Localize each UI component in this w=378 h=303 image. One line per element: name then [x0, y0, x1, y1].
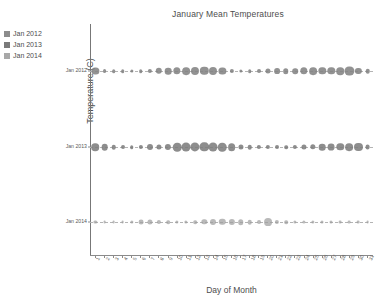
x-tick-label: 22 — [286, 254, 293, 261]
data-point[interactable] — [202, 219, 207, 224]
data-point[interactable] — [218, 143, 227, 152]
data-point[interactable] — [121, 145, 125, 149]
data-point[interactable] — [111, 145, 116, 150]
data-point[interactable] — [193, 220, 197, 224]
x-tick-label: 24 — [304, 254, 311, 261]
legend-swatch-icon — [4, 42, 10, 48]
data-point[interactable] — [103, 69, 107, 73]
chart-title: January Mean Temperatures — [88, 9, 368, 19]
data-point[interactable] — [173, 143, 182, 152]
data-point[interactable] — [200, 67, 208, 75]
data-point[interactable] — [265, 68, 270, 73]
data-point[interactable] — [319, 144, 326, 151]
data-point[interactable] — [275, 145, 279, 149]
x-tick-label: 11 — [186, 254, 193, 261]
data-point[interactable] — [248, 69, 252, 73]
data-point[interactable] — [319, 67, 326, 74]
data-point[interactable] — [284, 220, 288, 224]
data-point[interactable] — [147, 219, 152, 224]
data-point[interactable] — [92, 143, 100, 151]
data-point[interactable] — [130, 145, 134, 149]
data-point[interactable] — [346, 143, 354, 151]
chart-legend: Jan 2012Jan 2013Jan 2014 — [4, 29, 42, 60]
data-point[interactable] — [257, 220, 261, 224]
data-point[interactable] — [337, 67, 345, 75]
data-point[interactable] — [101, 144, 108, 151]
data-point[interactable] — [330, 221, 333, 224]
data-point[interactable] — [264, 218, 272, 226]
data-point[interactable] — [355, 68, 361, 74]
data-point[interactable] — [321, 221, 324, 224]
data-point[interactable] — [247, 220, 252, 225]
data-point[interactable] — [138, 220, 143, 225]
data-point[interactable] — [147, 144, 153, 150]
x-tick-label: 10 — [177, 254, 184, 261]
data-point[interactable] — [209, 67, 217, 75]
data-point[interactable] — [156, 144, 161, 149]
data-point[interactable] — [103, 221, 106, 224]
legend-item-jan-2014[interactable]: Jan 2014 — [4, 51, 42, 60]
legend-item-jan-2012[interactable]: Jan 2012 — [4, 29, 42, 38]
legend-item-jan-2013[interactable]: Jan 2013 — [4, 40, 42, 49]
data-point[interactable] — [112, 221, 115, 224]
data-point[interactable] — [365, 69, 370, 74]
data-point[interactable] — [348, 221, 351, 224]
data-point[interactable] — [247, 145, 252, 150]
data-point[interactable] — [165, 144, 171, 150]
data-point[interactable] — [302, 144, 307, 149]
data-point[interactable] — [219, 219, 225, 225]
data-point[interactable] — [165, 68, 172, 75]
data-point[interactable] — [112, 69, 116, 73]
x-tick-label: 19 — [259, 254, 266, 261]
x-tick-label: 31 — [368, 254, 375, 261]
data-point[interactable] — [139, 69, 143, 73]
x-tick-label: 17 — [241, 254, 248, 261]
data-point[interactable] — [257, 69, 261, 73]
data-point[interactable] — [337, 143, 344, 150]
data-point[interactable] — [328, 144, 335, 151]
data-point[interactable] — [328, 67, 335, 74]
data-point[interactable] — [283, 68, 289, 74]
data-point[interactable] — [310, 144, 315, 149]
data-point[interactable] — [156, 68, 162, 74]
x-tick-label: 20 — [268, 254, 275, 261]
data-point[interactable] — [354, 143, 362, 151]
y-tick-label: Jan 2014 — [66, 219, 87, 224]
x-tick-label: 27 — [331, 254, 338, 261]
x-tick-label: 7 — [150, 256, 156, 261]
data-point[interactable] — [173, 67, 180, 74]
data-point[interactable] — [228, 219, 234, 225]
legend-swatch-icon — [4, 53, 10, 59]
data-point[interactable] — [309, 67, 317, 75]
data-point[interactable] — [357, 221, 360, 224]
data-point[interactable] — [92, 67, 99, 74]
data-point[interactable] — [228, 143, 236, 151]
x-tick-label: 2 — [105, 256, 111, 261]
data-point[interactable] — [274, 68, 280, 74]
data-point[interactable] — [219, 67, 226, 74]
data-point[interactable] — [300, 67, 307, 74]
data-point[interactable] — [191, 67, 199, 75]
data-point[interactable] — [209, 143, 218, 152]
x-tick-label: 30 — [358, 254, 365, 261]
y-tick-label: Jan 2013 — [66, 144, 87, 149]
legend-item-label: Jan 2014 — [13, 51, 42, 60]
data-point[interactable] — [166, 220, 170, 224]
data-point[interactable] — [121, 221, 124, 224]
data-point[interactable] — [182, 143, 191, 152]
data-point[interactable] — [366, 221, 369, 224]
x-tick-label: 5 — [132, 256, 138, 261]
data-point[interactable] — [121, 69, 125, 73]
data-point[interactable] — [365, 145, 370, 150]
data-point[interactable] — [339, 221, 342, 224]
x-tick-label: 13 — [204, 254, 211, 261]
data-point[interactable] — [284, 145, 288, 149]
data-point[interactable] — [238, 144, 243, 149]
data-point[interactable] — [182, 67, 190, 75]
data-point[interactable] — [191, 142, 200, 151]
data-point[interactable] — [292, 68, 298, 74]
data-point[interactable] — [238, 219, 244, 225]
data-point[interactable] — [200, 142, 209, 151]
data-point[interactable] — [210, 219, 216, 225]
data-point[interactable] — [345, 66, 354, 75]
